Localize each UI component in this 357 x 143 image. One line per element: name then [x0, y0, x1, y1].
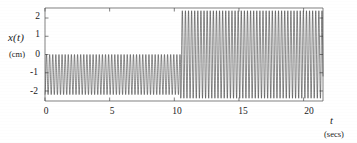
plot-canvas	[0, 0, 357, 143]
oscillation-figure: x(t) (cm) t (secs) 2 1 0 -1 -2 0 5 10 15…	[0, 0, 357, 143]
waveform-path	[45, 11, 323, 99]
